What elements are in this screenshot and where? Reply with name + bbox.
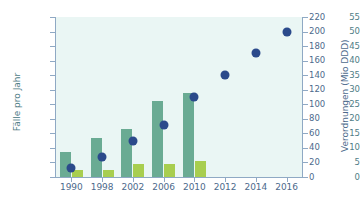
- y-tick-mark: [50, 177, 55, 178]
- y2-tick-mark: [303, 32, 308, 33]
- x-axis-line: [55, 177, 303, 178]
- y2-tick-mark: [303, 177, 308, 178]
- data-point-dot: [159, 120, 168, 129]
- x-tick-label: 1998: [91, 182, 114, 192]
- y-tick-mark: [50, 46, 55, 47]
- y2-tick-mark: [303, 17, 308, 18]
- data-point-dot: [282, 27, 291, 36]
- y2-tick-mark: [303, 148, 308, 149]
- data-point-dot: [221, 71, 230, 80]
- y2-tick-mark: [303, 90, 308, 91]
- y2-tick-label: 0: [309, 173, 314, 182]
- y2-tick-label: 40: [309, 143, 320, 152]
- y-axis-title: Fälle pro Jahr: [12, 52, 22, 152]
- y-tick-mark: [50, 119, 55, 120]
- x-tick-label: 2006: [152, 182, 175, 192]
- y2-tick-mark: [303, 75, 308, 76]
- y-tick-mark: [50, 162, 55, 163]
- y2-tick-mark: [303, 162, 308, 163]
- y2-tick-label: 20: [309, 158, 320, 167]
- x-tick-label: 2014: [244, 182, 267, 192]
- y2-tick-label: 200: [309, 27, 325, 36]
- y2-tick-label: 140: [309, 71, 325, 80]
- y2-axis-title: Verordnungen (Mio DDD): [340, 52, 350, 152]
- data-point-dot: [251, 49, 260, 58]
- plot-area: [56, 17, 302, 177]
- x-tick-label: 2002: [121, 182, 144, 192]
- y-tick-mark: [50, 90, 55, 91]
- chart-container: 0510152025303540455055 02040608010012014…: [0, 0, 360, 211]
- y-tick-mark: [50, 133, 55, 134]
- x-tick-label: 2010: [183, 182, 206, 192]
- right-axis-line: [302, 17, 303, 178]
- data-point-dot: [190, 93, 199, 102]
- y2-tick-label: 120: [309, 85, 325, 94]
- y2-tick-mark: [303, 61, 308, 62]
- y2-tick-label: 100: [309, 100, 325, 109]
- y-tick-mark: [50, 104, 55, 105]
- dots-layer: [56, 17, 302, 177]
- y-tick-mark: [50, 17, 55, 18]
- y2-tick-label: 220: [309, 13, 325, 22]
- y2-tick-mark: [303, 46, 308, 47]
- y2-tick-label: 80: [309, 114, 320, 123]
- data-point-dot: [98, 152, 107, 161]
- data-point-dot: [128, 136, 137, 145]
- x-tick-label: 2016: [275, 182, 298, 192]
- y-tick-mark: [50, 32, 55, 33]
- x-tick-label: 2012: [214, 182, 237, 192]
- y-tick-mark: [50, 148, 55, 149]
- y2-tick-mark: [303, 119, 308, 120]
- y2-tick-mark: [303, 104, 308, 105]
- data-point-dot: [67, 164, 76, 173]
- y2-tick-label: 180: [309, 42, 325, 51]
- y2-tick-label: 160: [309, 56, 325, 65]
- y-tick-mark: [50, 75, 55, 76]
- y-tick-mark: [50, 61, 55, 62]
- y-tick-label: 0: [312, 173, 360, 182]
- left-axis-line: [55, 17, 56, 178]
- x-tick-label: 1990: [60, 182, 83, 192]
- y2-tick-label: 60: [309, 129, 320, 138]
- y2-tick-mark: [303, 133, 308, 134]
